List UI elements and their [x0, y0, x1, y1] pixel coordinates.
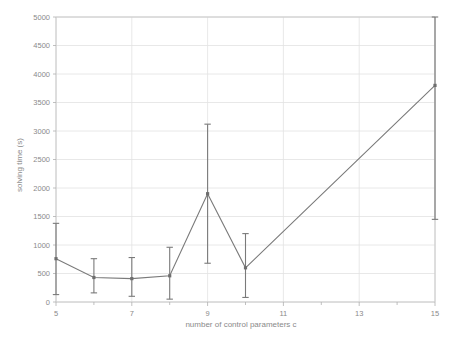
data-point-marker — [130, 277, 133, 280]
x-tick-label: 13 — [355, 309, 363, 318]
y-tick-label: 4000 — [33, 70, 50, 79]
x-tick-label: 9 — [206, 309, 210, 318]
y-tick-label: 2000 — [33, 184, 50, 193]
y-tick-label: 5000 — [33, 13, 50, 22]
y-tick-label: 4500 — [33, 41, 50, 50]
data-point-marker — [244, 266, 247, 269]
y-tick-label: 0 — [46, 298, 50, 307]
y-tick-label: 3000 — [33, 127, 50, 136]
data-point-marker — [54, 257, 57, 260]
x-axis-ticks — [53, 17, 435, 306]
line-chart-with-error-bars: 0500100015002000250030003500400045005000… — [0, 0, 459, 342]
y-tick-label: 2500 — [33, 155, 50, 164]
x-tick-label: 15 — [431, 309, 439, 318]
data-point-marker — [206, 192, 209, 195]
data-point-marker — [92, 276, 95, 279]
data-point-marker — [168, 274, 171, 277]
x-tick-label: 11 — [280, 309, 288, 318]
x-tick-label: 5 — [54, 309, 58, 318]
data-point-marker — [433, 84, 436, 87]
x-axis-tick-labels: 579111315 — [54, 309, 439, 318]
y-tick-label: 1500 — [33, 212, 50, 221]
y-tick-label: 1000 — [33, 241, 50, 250]
y-tick-label: 3500 — [33, 98, 50, 107]
error-bars — [53, 17, 438, 299]
x-axis-title: number of control parameters c — [185, 320, 296, 329]
chart-container: 0500100015002000250030003500400045005000… — [0, 0, 459, 342]
y-axis-tick-labels: 0500100015002000250030003500400045005000 — [33, 13, 50, 307]
y-tick-label: 500 — [37, 269, 50, 278]
y-axis-title: solving time (s) — [15, 138, 24, 192]
x-tick-label: 7 — [130, 309, 134, 318]
